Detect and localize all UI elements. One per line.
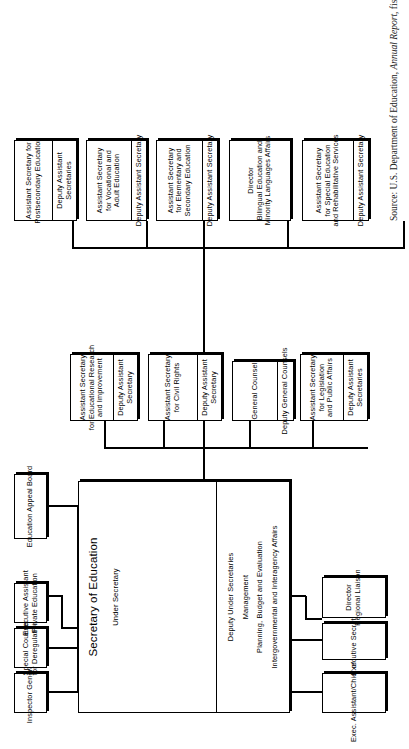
connector-regional-liaison-down	[305, 619, 322, 621]
box-elementary-secondary-education-sub: Deputy Assistant Secretary	[202, 141, 217, 220]
box-postsecondary-education-label: Assistant Secretary for Postsecondary Ed…	[15, 141, 52, 220]
box-executive-assistant[interactable]: Executive Assistant Private Education	[14, 583, 47, 623]
box-elementary-secondary-education-label: Assistant Secretary for Elementary and S…	[157, 141, 202, 220]
stub-postsecondary	[72, 221, 74, 249]
box-educational-research-improvement-label: Assistant Secretary for Educational Rese…	[71, 355, 113, 420]
secretary-title: Secretary of Education	[79, 482, 102, 712]
connector-appeal-board	[46, 506, 78, 508]
box-exec-assistant-chief-of-staff-label: Exec. Assistant/Chief of Staff	[323, 674, 385, 712]
box-director-regional-liaison[interactable]: Director Regional Liaison	[322, 577, 386, 618]
box-director-regional-liaison-label: Director Regional Liaison	[323, 578, 385, 617]
source-citation: Source: U.S. Department of Education, An…	[389, 0, 399, 221]
box-civil-rights-label: Assistant Secretary for Civil Rights	[149, 355, 197, 420]
box-educational-research-improvement-sub: Deputy Assistant Secretary	[113, 355, 137, 420]
box-legislation-public-affairs[interactable]: Assistant Secretary for Legislation and …	[300, 354, 368, 421]
box-postsecondary-education-sub: Deputy Assistant Secretaries	[52, 141, 76, 220]
deputy-under-secretaries-block: Deputy Under Secretaries Management Plan…	[216, 482, 289, 712]
box-executive-assistant-label: Executive Assistant Private Education	[15, 584, 46, 622]
box-bilingual-education-label: Director Bilingual Education and Minorit…	[230, 141, 290, 220]
connector-inspector-general	[46, 692, 78, 694]
box-general-counsel-sub: Deputy General Counsels	[277, 362, 293, 420]
under-secretary-label: Under Secretary	[102, 482, 217, 712]
stub-civil-rights	[163, 421, 165, 449]
stub-general-counsel	[249, 421, 251, 449]
connector-executive-assistant-down	[61, 628, 78, 630]
connector-regional-liaison-up	[290, 596, 306, 598]
box-elementary-secondary-education[interactable]: Assistant Secretary for Elementary and S…	[156, 140, 218, 221]
connector-executive-secretary	[290, 640, 322, 642]
connector-special-counsel	[46, 648, 78, 650]
stub-special-education	[403, 221, 405, 249]
connector-executive-assistant	[46, 596, 62, 598]
box-secretary-of-education[interactable]: Secretary of Education Under Secretary D…	[78, 481, 290, 713]
box-education-appeal-board-label: Education Appeal Board	[15, 475, 46, 538]
stub-vocational-adult	[146, 221, 148, 249]
box-general-counsel[interactable]: General Counsel Deputy General Counsels	[232, 361, 294, 421]
box-inspector-general[interactable]: Inspector General	[14, 673, 47, 713]
stub-bilingual	[287, 221, 289, 249]
box-legislation-public-affairs-sub: Deputy Assistant Secretaries	[343, 355, 367, 420]
box-educational-research-improvement[interactable]: Assistant Secretary for Educational Rese…	[70, 354, 138, 421]
box-bilingual-education[interactable]: Director Bilingual Education and Minorit…	[229, 140, 291, 221]
box-vocational-adult-education[interactable]: Assistant Secretary for Vocational and A…	[86, 140, 147, 221]
box-civil-rights-sub: Deputy Assistant Secretary	[197, 355, 221, 420]
box-civil-rights[interactable]: Assistant Secretary for Civil Rights Dep…	[148, 354, 222, 421]
box-executive-secretary[interactable]: Executive Secretary	[322, 623, 386, 660]
right-column-spine	[72, 248, 404, 250]
source-prefix: Source: U.S. Department of Education,	[389, 70, 399, 221]
box-inspector-general-label: Inspector General	[15, 674, 46, 712]
connector-executive-assistant-jog	[61, 595, 63, 629]
box-postsecondary-education[interactable]: Assistant Secretary for Postsecondary Ed…	[14, 140, 77, 221]
connector-regional-liaison-jog	[305, 596, 307, 620]
connector-exec-assistant-chief	[290, 692, 322, 694]
source-suffix: , fiscal year, 1984.	[389, 0, 399, 14]
box-general-counsel-label: General Counsel	[233, 362, 277, 420]
source-italic-title: Annual Report	[389, 14, 399, 70]
org-chart: Inspector General Special Counsel for De…	[0, 0, 409, 749]
box-vocational-adult-education-sub: Deputy Assistant Secretary	[131, 141, 146, 220]
box-special-education-rehabilitative-services-label: Assistant Secretary for Special Educatio…	[303, 141, 353, 220]
stub-legislation	[312, 421, 314, 449]
middle-column-spine	[104, 448, 368, 450]
box-executive-secretary-label: Executive Secretary	[323, 624, 385, 659]
box-exec-assistant-chief-of-staff[interactable]: Exec. Assistant/Chief of Staff	[322, 673, 386, 713]
bottom-staff-bus	[290, 596, 292, 693]
box-legislation-public-affairs-label: Assistant Secretary for Legislation and …	[301, 355, 343, 420]
box-education-appeal-board[interactable]: Education Appeal Board	[14, 474, 47, 539]
box-vocational-adult-education-label: Assistant Secretary for Vocational and A…	[87, 141, 131, 220]
box-special-education-rehabilitative-services[interactable]: Assistant Secretary for Special Educatio…	[302, 140, 369, 221]
box-special-education-rehabilitative-services-sub: Deputy Assistant Secretary	[353, 141, 368, 220]
